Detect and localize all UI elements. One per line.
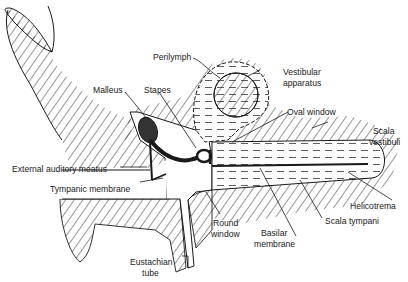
label-external-auditory-meatus: External auditory meatus [12,164,107,174]
label-round-window-line1: Round [213,218,239,228]
ear-anatomy-diagram: Perilymph Vestibular apparatus Malleus S… [0,0,408,282]
label-scala-vestibuli-line2: vestibuli [369,137,400,147]
label-round-window-line2: window [210,229,240,239]
label-scala-tympani: Scala tympani [325,216,379,226]
label-eustachian-tube-line2: tube [142,268,159,278]
label-helicotrema: Helicotrema [350,201,396,211]
pinna [5,6,132,140]
label-eustachian-tube-line1: Eustachian [130,257,173,267]
label-malleus: Malleus [93,85,123,95]
label-vestibular-apparatus-line2: apparatus [283,78,321,88]
label-stapes: Stapes [144,85,171,95]
label-tympanic-membrane: Tympanic membrane [50,184,130,194]
label-oval-window: Oval window [287,107,337,117]
label-vestibular-apparatus-line1: Vestibular [283,67,321,77]
label-basilar-membrane-line1: Basilar [261,228,287,238]
label-basilar-membrane-line2: membrane [254,239,295,249]
label-scala-vestibuli-line1: Scala [373,126,395,136]
label-perilymph: Perilymph [153,52,191,62]
